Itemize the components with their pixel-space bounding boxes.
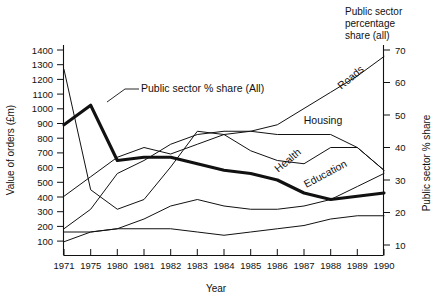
y2-tick-30: 30 — [395, 175, 406, 186]
x-tick-1975: 1975 — [80, 260, 101, 271]
y2-tick-20: 20 — [395, 207, 406, 218]
y2-tick-40: 40 — [395, 142, 406, 153]
y-tick-1300: 1300 — [32, 59, 53, 70]
corner-note-line-1: Public sector — [345, 6, 403, 17]
y-tick-200: 200 — [37, 221, 53, 232]
series-label-education: Education — [302, 157, 349, 190]
y2-tick-50: 50 — [395, 110, 406, 121]
y-tick-1400: 1400 — [32, 45, 53, 56]
corner-note-line-2: percentage — [345, 18, 395, 29]
y-tick-700: 700 — [37, 147, 53, 158]
x-axis-title: Year — [206, 283, 227, 294]
series-label-roads: Roads — [335, 63, 366, 92]
corner-note-line-3: share (all) — [345, 30, 389, 41]
x-tick-1986: 1986 — [267, 260, 288, 271]
series-line-roads — [64, 57, 384, 197]
x-tick-1981: 1981 — [133, 260, 154, 271]
callout-leader-line — [107, 89, 139, 102]
right-axis-tick-labels: 70 60 50 40 30 20 10 — [395, 45, 406, 251]
y-tick-800: 800 — [37, 133, 53, 144]
left-axis-tick-labels: 1400 1300 1200 1100 1000 900 800 700 600… — [32, 45, 53, 247]
series-label-housing: Housing — [304, 114, 343, 126]
x-tick-1990: 1990 — [373, 260, 394, 271]
y-tick-100: 100 — [37, 236, 53, 247]
y-tick-1100: 1100 — [33, 89, 53, 100]
series-line-housing — [64, 131, 384, 229]
y-tick-400: 400 — [37, 192, 53, 203]
left-axis-title: Value of orders (£m) — [5, 105, 16, 195]
y2-tick-10: 10 — [395, 240, 406, 251]
x-tick-1987: 1987 — [293, 260, 314, 271]
right-axis-title: Public sector % share — [421, 114, 432, 211]
y-tick-900: 900 — [37, 118, 53, 129]
x-tick-1983: 1983 — [187, 260, 208, 271]
x-tick-1971: 1971 — [53, 260, 74, 271]
x-tick-1980: 1980 — [107, 260, 128, 271]
left-axis-ticks — [57, 50, 64, 241]
y-tick-500: 500 — [37, 177, 53, 188]
y-tick-1200: 1200 — [32, 74, 53, 85]
x-axis-ticks — [64, 249, 384, 256]
series-line-unlabelled-lower-series — [64, 216, 384, 242]
x-tick-1988: 1988 — [320, 260, 341, 271]
line-chart: Public sector percentage share (all) 140… — [0, 0, 439, 300]
x-tick-1989: 1989 — [347, 260, 368, 271]
x-tick-1984: 1984 — [213, 260, 234, 271]
y-tick-300: 300 — [37, 206, 53, 217]
y2-tick-60: 60 — [395, 77, 406, 88]
x-tick-1985: 1985 — [240, 260, 261, 271]
y-tick-600: 600 — [37, 162, 53, 173]
x-tick-1982: 1982 — [160, 260, 181, 271]
y2-tick-70: 70 — [395, 45, 406, 56]
series-line-education — [64, 174, 384, 233]
y-tick-1000: 1000 — [32, 103, 53, 114]
x-axis-tick-labels: 1971 1975 1980 1981 1982 1983 1984 1985 … — [53, 260, 394, 271]
chart-container: Public sector percentage share (all) 140… — [0, 0, 439, 300]
callout-public-sector-share: Public sector % share (All) — [141, 82, 264, 94]
